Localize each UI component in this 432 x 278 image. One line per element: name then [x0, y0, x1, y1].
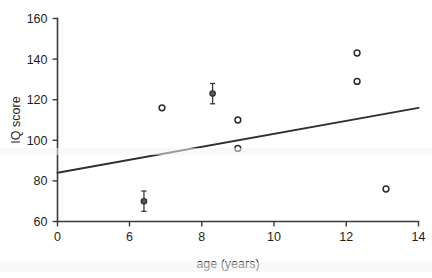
- y-tick-label: 80: [34, 174, 48, 188]
- scatter-plot-figure: 1601401201008060 068101214 age (years) I…: [0, 0, 432, 278]
- data-point-filled: [141, 199, 146, 204]
- y-tick-label: 120: [27, 93, 48, 107]
- y-tick-label: 100: [27, 134, 48, 148]
- y-tick-label: 60: [34, 215, 48, 229]
- data-point-filled: [210, 91, 215, 96]
- chart-canvas: 1601401201008060 068101214 age (years) I…: [0, 0, 432, 278]
- x-tick-label: 6: [126, 230, 133, 244]
- x-tick-label: 12: [339, 230, 353, 244]
- y-tick-label: 160: [27, 12, 48, 26]
- y-axis-title: IQ score: [9, 96, 23, 143]
- x-tick-label: 0: [54, 230, 61, 244]
- y-tick-label: 140: [27, 53, 48, 67]
- x-axis-title: age (years): [196, 257, 259, 271]
- x-tick-label: 8: [198, 230, 205, 244]
- x-tick-label: 10: [267, 230, 281, 244]
- chart-background: [0, 0, 432, 278]
- x-tick-label: 14: [412, 230, 426, 244]
